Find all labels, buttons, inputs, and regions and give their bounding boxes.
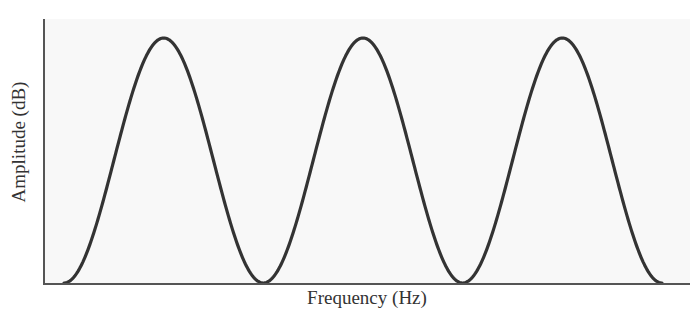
y-axis-label: Amplitude (dB) (4, 0, 34, 284)
plot-area (44, 19, 690, 284)
x-axis-label: Frequency (Hz) (44, 287, 690, 309)
y-axis-label-text: Amplitude (dB) (8, 82, 30, 203)
chart-canvas (0, 0, 693, 320)
